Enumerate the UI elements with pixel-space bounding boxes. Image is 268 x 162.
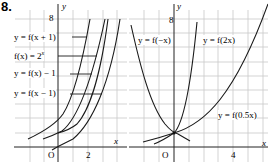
right-y-axis-label: y [177, 1, 181, 11]
left-y-tick-8: 8 [49, 13, 54, 23]
label-f-x-minus-one: y = f(x) − 1 [14, 68, 56, 78]
label-f-2x: y = f(2x) [203, 35, 235, 45]
label-f-x-exp: x [42, 50, 45, 56]
right-x-axis-label: x [262, 138, 266, 148]
right-y-tick-8: 8 [169, 15, 174, 25]
left-x-axis-label: x [114, 136, 118, 146]
label-f-x-minus-1-shift: y = f(x − 1) [14, 88, 56, 98]
label-f-x: f(x) = 2x [14, 50, 44, 61]
left-y-axis-label: y [62, 1, 66, 11]
label-f-x-plus-1: y = f(x + 1) [14, 32, 56, 42]
right-origin-label: O [162, 150, 169, 160]
label-f-x-base: f(x) = 2 [14, 51, 42, 61]
left-x-tick-2: 2 [86, 150, 91, 160]
label-f-neg-x: y = f(−x) [138, 35, 171, 45]
right-x-tick-4: 4 [231, 150, 236, 160]
problem-number: 8. [1, 0, 12, 14]
left-origin-label: O [48, 150, 55, 160]
label-f-half-x: y = f(0.5x) [218, 110, 257, 120]
